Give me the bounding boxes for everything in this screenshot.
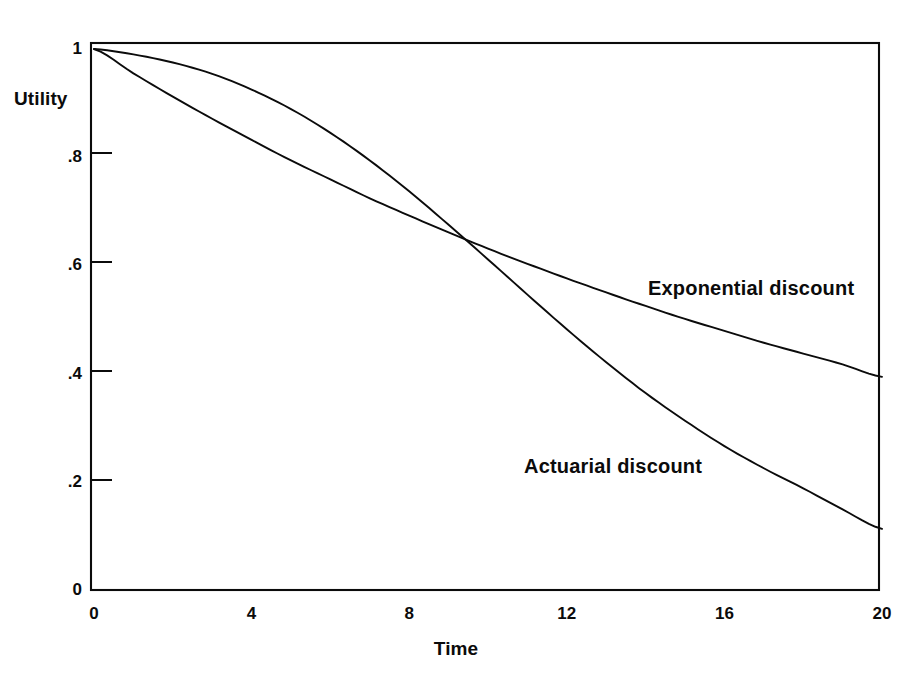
x-tick-label: 12 [557,604,576,624]
x-tick-label: 0 [89,604,98,624]
series-label-actuarial-discount: Actuarial discount [524,455,702,478]
series-line-exponential-discount [94,49,882,377]
y-tick-marks [91,153,112,480]
y-tick-label: .4 [40,364,82,384]
y-tick-label: .2 [40,472,82,492]
plot-frame [91,43,879,590]
y-axis-title: Utility [14,88,67,110]
series-label-exponential-discount: Exponential discount [648,277,854,300]
x-tick-label: 20 [873,604,892,624]
x-tick-label: 8 [404,604,413,624]
exponential-leader-line [580,267,645,296]
x-tick-label: 4 [247,604,256,624]
y-tick-label: 1 [40,39,82,59]
x-axis-title: Time [434,638,478,660]
plot-area [0,0,914,676]
y-tick-label: .8 [40,147,82,167]
y-tick-label: .6 [40,255,82,275]
y-tick-label: 0 [40,580,82,600]
x-tick-label: 16 [715,604,734,624]
chart-figure: Utility Time 0.2.4.6.81 048121620 Expone… [0,0,914,676]
